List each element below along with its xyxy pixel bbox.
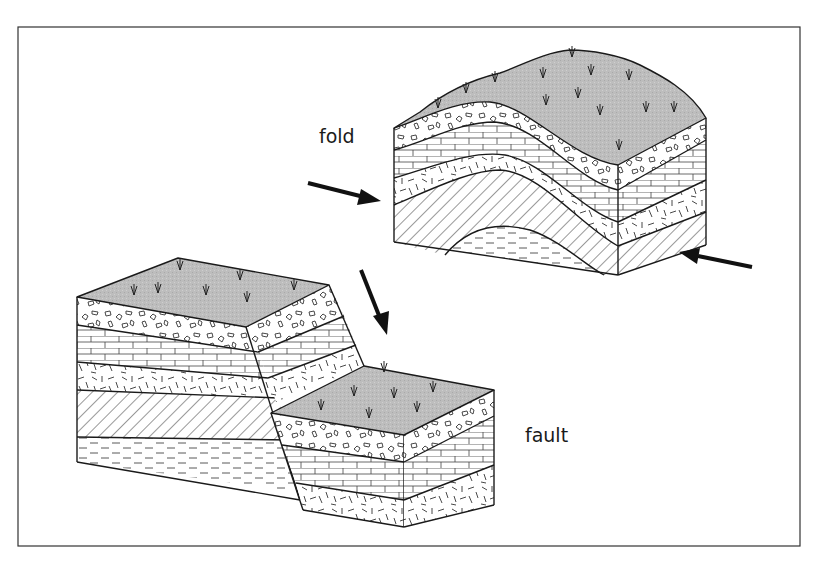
- fault-label: fault: [525, 424, 568, 446]
- geology-diagram: fold fault: [0, 0, 824, 574]
- diagram-canvas: [0, 0, 824, 574]
- fold-label: fold: [319, 125, 355, 147]
